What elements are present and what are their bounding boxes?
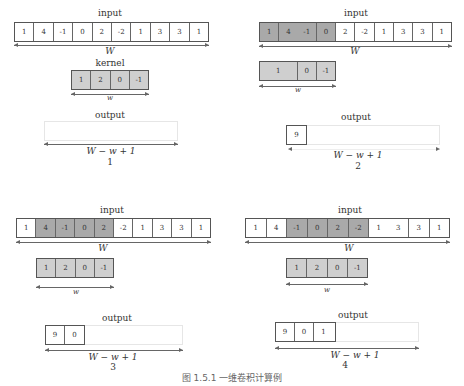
output-array: 9 0: [45, 325, 85, 345]
kernel-cell: 1: [37, 259, 56, 277]
panel-number: 4: [335, 360, 355, 370]
input-cell-highlighted: -1: [298, 23, 317, 41]
input-cell: 2: [336, 23, 355, 41]
kernel-array: 1 0 -1: [259, 61, 336, 81]
output-array: 9: [286, 125, 307, 145]
panel-number: 2: [348, 161, 368, 171]
output-width-label: W − w + 1: [324, 350, 386, 360]
input-cell-highlighted: 4: [279, 23, 297, 41]
input-cell: 1: [375, 23, 394, 41]
input-array: 1 4 -1 0 2 -2 1 3 3 1: [16, 218, 211, 238]
kernel-cell: 0: [76, 259, 95, 277]
output-cell: 9: [46, 326, 65, 344]
output-cell: 9: [287, 126, 306, 144]
output-width-label: W − w + 1: [327, 150, 389, 160]
input-cell: 2: [93, 23, 112, 41]
input-cell-highlighted: -2: [349, 219, 370, 237]
input-cell-highlighted: 0: [308, 219, 329, 237]
input-label: input: [90, 8, 130, 18]
input-cell-highlighted: 2: [95, 219, 114, 237]
output-width-arrow: [44, 144, 178, 145]
kernel-width-label: w: [288, 86, 308, 94]
input-width-label: W: [339, 243, 359, 253]
input-cell-highlighted: -1: [287, 219, 308, 237]
kernel-label: kernel: [90, 58, 130, 68]
input-cell: 3: [413, 23, 432, 41]
output-width-arrow: [45, 350, 183, 351]
output-label: output: [97, 313, 137, 323]
input-cell: 1: [190, 23, 208, 41]
kernel-cell: 0: [111, 71, 130, 89]
kernel-cell: 2: [56, 259, 75, 277]
input-cell: 1: [17, 219, 36, 237]
input-cell: 3: [153, 219, 172, 237]
input-cell-highlighted: 0: [317, 23, 336, 41]
input-width-arrow: [16, 242, 211, 243]
kernel-cell: -1: [348, 259, 367, 277]
input-cell: 4: [34, 23, 53, 41]
input-cell: 1: [15, 23, 34, 41]
input-cell: -1: [54, 23, 73, 41]
kernel-cell: 1: [260, 62, 297, 80]
figure-caption: 图 1.5.1 一维卷积计算例: [0, 371, 464, 384]
input-cell: 3: [151, 23, 170, 41]
output-cell: 1: [314, 323, 333, 341]
output-array: 9 0 1: [275, 322, 336, 342]
kernel-cell: -1: [95, 259, 113, 277]
input-label: input: [92, 205, 132, 215]
kernel-width-label: w: [100, 94, 120, 102]
output-width-arrow: [275, 348, 419, 349]
output-label: output: [333, 310, 373, 320]
input-cell: 3: [170, 23, 189, 41]
input-cell: -2: [355, 23, 374, 41]
input-cell: -2: [112, 23, 131, 41]
output-area: [44, 121, 178, 141]
input-cell-highlighted: 4: [36, 219, 55, 237]
input-cell: 3: [172, 219, 191, 237]
kernel-width-label: w: [66, 288, 86, 296]
kernel-cell: -1: [317, 62, 335, 80]
input-cell: 4: [267, 219, 288, 237]
output-area: [286, 125, 440, 145]
kernel-array: 1 2 0 -1: [71, 70, 149, 90]
input-cell: 3: [394, 23, 413, 41]
kernel-width-label: w: [317, 286, 337, 294]
input-label: input: [330, 205, 370, 215]
input-cell: 1: [133, 219, 152, 237]
input-width-label: W: [345, 46, 365, 56]
kernel-cell: 1: [72, 71, 91, 89]
input-cell: 3: [389, 219, 410, 237]
input-cell-highlighted: 1: [260, 23, 279, 41]
kernel-cell: 0: [328, 259, 348, 277]
input-cell: -2: [114, 219, 133, 237]
kernel-array: 1 2 0 -1: [36, 258, 114, 278]
input-cell: 1: [131, 23, 150, 41]
input-cell-highlighted: 0: [75, 219, 94, 237]
input-cell: 1: [192, 219, 210, 237]
input-label: input: [336, 8, 376, 18]
input-cell: 1: [433, 23, 451, 41]
kernel-cell: -1: [130, 71, 148, 89]
output-cell: 9: [276, 323, 295, 341]
kernel-cell: 2: [307, 259, 327, 277]
input-cell-highlighted: 2: [328, 219, 349, 237]
input-cell: 1: [369, 219, 389, 237]
kernel-cell: 0: [298, 62, 317, 80]
input-cell-highlighted: -1: [56, 219, 75, 237]
input-array: 1 4 -1 0 2 -2 1 3 3 1: [259, 22, 452, 42]
kernel-cell: 2: [91, 71, 110, 89]
output-cell: 0: [65, 326, 84, 344]
output-cell: 0: [295, 323, 314, 341]
output-label: output: [336, 112, 376, 122]
input-array: 1 4 -1 0 2 -2 1 3 3 1: [245, 218, 450, 238]
input-cell: 3: [409, 219, 430, 237]
kernel-width-arrow: [286, 284, 368, 285]
output-width-label: W − w + 1: [80, 146, 142, 156]
panel-number: 1: [100, 157, 120, 167]
kernel-array: 1 2 0 -1: [286, 258, 368, 278]
input-cell: 1: [246, 219, 267, 237]
kernel-cell: 1: [287, 259, 307, 277]
output-label: output: [90, 110, 130, 120]
input-cell: 1: [430, 219, 450, 237]
input-array: 1 4 -1 0 2 -2 1 3 3 1: [14, 22, 209, 42]
